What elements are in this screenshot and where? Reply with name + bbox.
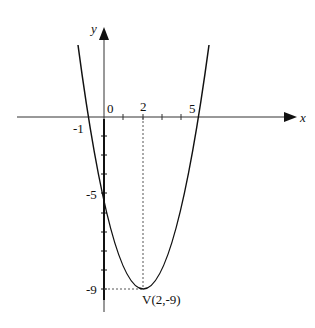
tick-label-2: 2 <box>140 100 147 113</box>
tick-label-minus5: -5 <box>86 188 97 201</box>
x-axis-label: x <box>300 111 306 124</box>
tick-label-0: 0 <box>107 102 114 115</box>
tick-label-minus9: -9 <box>86 283 97 296</box>
y-axis-label: y <box>91 22 97 35</box>
tick-label-minus1: -1 <box>73 122 84 135</box>
x-axis-arrow-icon <box>284 112 297 122</box>
vertex-label: V(2,-9) <box>142 293 181 306</box>
tick-label-5: 5 <box>189 102 196 115</box>
parabola-chart <box>0 0 315 328</box>
y-axis-arrow-icon <box>99 27 109 40</box>
